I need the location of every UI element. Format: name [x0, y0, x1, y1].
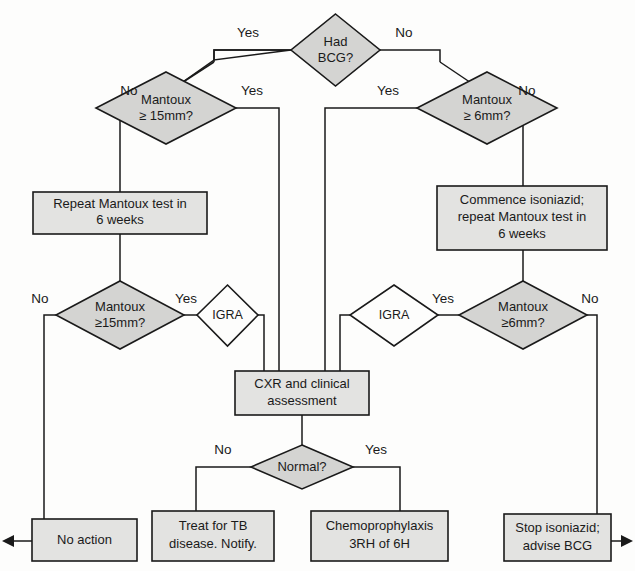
chemoprophylaxis-label-line1: Chemoprophylaxis	[326, 518, 434, 533]
mantoux15-top-label-line2: ≥ 15mm?	[139, 108, 193, 123]
node-normal[interactable]: Normal?	[251, 445, 353, 489]
commence-isoniazid-label-line1: Commence isoniazid;	[460, 192, 584, 207]
edge-label-normal-yes: Yes	[365, 442, 387, 457]
mantoux15-bottom-label-line2: ≥15mm?	[95, 315, 145, 330]
mantoux6-top-label-line1: Mantoux	[462, 92, 512, 107]
had-bcg-label-line2: BCG?	[318, 50, 353, 65]
node-mantoux6-bottom[interactable]: Mantoux ≥6mm?	[459, 281, 587, 349]
flowchart-canvas: Had BCG? Mantoux ≥ 15mm? Mantoux ≥ 6mm? …	[0, 0, 635, 571]
repeat-mantoux-label-line1: Repeat Mantoux test in	[53, 196, 187, 211]
edge-igraleft-to-cxr	[258, 315, 264, 371]
edge-normal-yes	[353, 467, 400, 511]
stop-isoniazid-label-line1: Stop isoniazid;	[515, 520, 600, 535]
edge-label-m15bot-yes: Yes	[175, 291, 197, 306]
treat-tb-label-line2: disease. Notify.	[169, 536, 257, 551]
mantoux15-bottom-label-line1: Mantoux	[95, 299, 145, 314]
node-stop-isoniazid[interactable]: Stop isoniazid; advise BCG	[504, 514, 611, 561]
edge-label-m6bot-no: No	[581, 291, 598, 306]
repeat-mantoux-label-line2: 6 weeks	[96, 212, 144, 227]
had-bcg-label-line1: Had	[324, 34, 348, 49]
stop-isoniazid-label-line2: advise BCG	[523, 538, 592, 553]
node-igra-right[interactable]: IGRA	[350, 285, 438, 346]
treat-tb-label-line1: Treat for TB	[179, 518, 248, 533]
chemoprophylaxis-label-line2: 3RH of 6H	[349, 536, 410, 551]
igra-left-label: IGRA	[212, 308, 243, 322]
flowchart-svg: Had BCG? Mantoux ≥ 15mm? Mantoux ≥ 6mm? …	[0, 0, 635, 571]
commence-isoniazid-label-line2: repeat Mantoux test in	[458, 209, 587, 224]
node-no-action[interactable]: No action	[32, 519, 137, 561]
edge-m15top-no	[96, 108, 120, 192]
edge-bcg-no	[380, 50, 440, 62]
node-treat-tb[interactable]: Treat for TB disease. Notify.	[152, 511, 274, 561]
node-mantoux15-top[interactable]: Mantoux ≥ 15mm?	[96, 72, 236, 144]
node-chemoprophylaxis[interactable]: Chemoprophylaxis 3RH of 6H	[311, 511, 448, 561]
commence-isoniazid-label-line3: 6 weeks	[498, 226, 546, 241]
mantoux15-top-label-line1: Mantoux	[141, 92, 191, 107]
arrow-right-icon	[621, 535, 633, 547]
node-repeat-mantoux[interactable]: Repeat Mantoux test in 6 weeks	[33, 192, 207, 234]
edge-label-bcg-yes: Yes	[237, 25, 259, 40]
node-commence-isoniazid[interactable]: Commence isoniazid; repeat Mantoux test …	[437, 186, 607, 250]
node-cxr-assessment[interactable]: CXR and clinical assessment	[235, 371, 369, 415]
mantoux6-bottom-label-line1: Mantoux	[498, 299, 548, 314]
edge-label-m6top-no: No	[518, 83, 535, 98]
edge-m15bot-no	[44, 315, 56, 519]
node-had-bcg[interactable]: Had BCG?	[291, 14, 380, 86]
edge-label-m15bot-no: No	[31, 291, 48, 306]
node-mantoux15-bottom[interactable]: Mantoux ≥15mm?	[56, 281, 184, 349]
node-igra-left[interactable]: IGRA	[197, 285, 258, 346]
edge-igraright-to-cxr	[340, 315, 350, 371]
edge-label-m15top-no: No	[120, 83, 137, 98]
no-action-label: No action	[57, 532, 112, 547]
normal-label: Normal?	[277, 459, 326, 474]
arrow-left-icon	[2, 535, 14, 547]
edge-label-m15top-yes: Yes	[241, 83, 263, 98]
cxr-assessment-label-line2: assessment	[267, 393, 337, 408]
edge-label-m6top-yes: Yes	[377, 83, 399, 98]
edge-m6bot-no	[587, 315, 597, 519]
node-mantoux6-top[interactable]: Mantoux ≥ 6mm?	[417, 72, 557, 144]
edge-label-bcg-no: No	[395, 25, 412, 40]
cxr-assessment-label-line1: CXR and clinical	[254, 376, 349, 391]
mantoux6-top-label-line2: ≥ 6mm?	[464, 108, 511, 123]
mantoux6-bottom-label-line2: ≥6mm?	[501, 315, 544, 330]
edge-label-normal-no: No	[214, 442, 231, 457]
edge-normal-no	[196, 467, 251, 511]
igra-right-label: IGRA	[379, 308, 410, 322]
edge-label-m6bot-yes: Yes	[432, 291, 454, 306]
